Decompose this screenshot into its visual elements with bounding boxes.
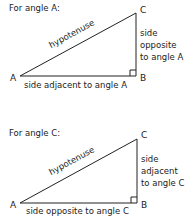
horizontal-side-label: side adjacent to angle A [24, 80, 127, 90]
vertex-b: B [141, 200, 147, 210]
vertical-side-label-line3: to angle C [141, 178, 184, 188]
vertex-b: B [140, 73, 146, 83]
diagram-title: For angle A: [9, 3, 60, 13]
vertical-side-label-line2: opposite [140, 40, 177, 50]
vertical-side-label-line1: side [140, 28, 157, 38]
vertex-c: C [140, 5, 146, 15]
triangle-angle-c [20, 139, 137, 203]
vertical-side-label-line3: to angle A [140, 52, 183, 62]
diagram-title: For angle C: [9, 128, 60, 138]
vertex-a: A [10, 200, 16, 210]
vertex-a: A [10, 73, 16, 83]
horizontal-side-label: side opposite to angle C [26, 206, 129, 216]
vertex-c: C [141, 130, 147, 140]
vertical-side-label-line2: adjacent [141, 166, 178, 176]
vertical-side-label-line1: side [141, 154, 158, 164]
right-angle-marker [131, 197, 137, 203]
right-angle-marker [130, 70, 136, 76]
triangle-angle-a [20, 13, 136, 76]
